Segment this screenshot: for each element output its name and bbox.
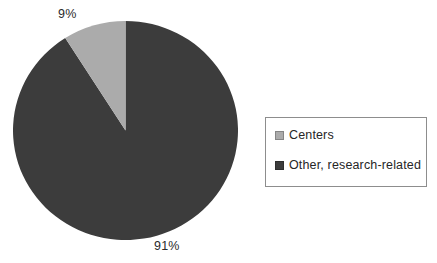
legend-item-centers[interactable]: Centers [275,129,334,142]
legend-label-other: Other, research-related [289,159,421,172]
pie-chart-figure: 9% 91% Centers Other, research-related [0,0,437,263]
pie-slice-other[interactable] [13,21,238,240]
legend-label-centers: Centers [289,129,334,142]
legend-swatch-icon-other [275,161,284,170]
pie-data-label-centers: 9% [58,8,76,21]
pie-data-label-other: 91% [154,240,180,253]
pie-svg [13,21,238,240]
pie-plot-area [13,21,238,240]
legend-swatch-icon-centers [275,131,284,140]
chart-legend: Centers Other, research-related [265,117,427,187]
legend-item-other[interactable]: Other, research-related [275,159,421,172]
